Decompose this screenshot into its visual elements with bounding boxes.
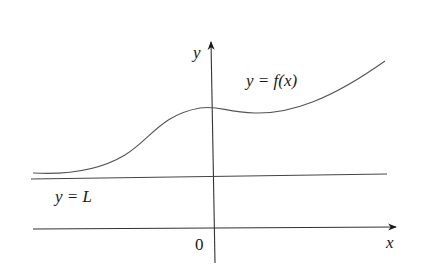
- asymptote-label: y = L: [53, 187, 92, 206]
- y-axis-label: y: [191, 43, 201, 62]
- x-axis-label: x: [385, 233, 394, 252]
- curve-label: y = f(x): [244, 71, 297, 90]
- y-axis: [211, 42, 215, 263]
- function-graph: y x 0 y = f(x) y = L: [0, 0, 421, 279]
- asymptote-line: [31, 174, 387, 179]
- function-curve: [33, 61, 385, 173]
- origin-label: 0: [195, 235, 204, 254]
